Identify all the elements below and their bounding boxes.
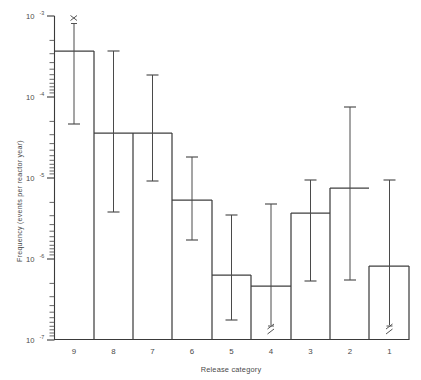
y-tick-label-1e-6-base: 10 bbox=[26, 255, 34, 264]
y-tick-label-1e-7-base: 10 bbox=[26, 336, 34, 345]
y-tick-label-1e-3-exponent: -3 bbox=[40, 10, 45, 16]
y-tick-label-1e-4-base: 10 bbox=[26, 93, 34, 102]
y-axis-title: Frequency (events per reactor year) bbox=[16, 140, 24, 262]
y-tick-label-1e-6-exponent: -6 bbox=[40, 253, 45, 259]
y-tick-label-1e-4-exponent: -4 bbox=[40, 91, 45, 97]
x-tick-label-8: 8 bbox=[111, 347, 116, 356]
x-axis-title: Release category bbox=[201, 365, 262, 374]
y-tick-label-1e-3-base: 10 bbox=[26, 12, 34, 21]
x-tick-label-9: 9 bbox=[72, 347, 77, 356]
y-tick-label-1e-7-exponent: -7 bbox=[40, 334, 45, 340]
y-tick-label-1e-5-base: 10 bbox=[26, 174, 34, 183]
x-tick-label-7: 7 bbox=[150, 347, 154, 356]
chart-svg: 10 -3 10 -4 10 -5 10 -6 10 -7 Frequency … bbox=[0, 0, 421, 380]
x-tick-label-3: 3 bbox=[308, 347, 313, 356]
x-tick-label-5: 5 bbox=[229, 347, 234, 356]
x-tick-label-1: 1 bbox=[387, 347, 391, 356]
chart-background bbox=[0, 0, 421, 380]
x-tick-label-6: 6 bbox=[190, 347, 195, 356]
y-tick-label-1e-5-exponent: -5 bbox=[40, 172, 45, 178]
x-tick-label-2: 2 bbox=[348, 347, 352, 356]
chart-figure: 10 -3 10 -4 10 -5 10 -6 10 -7 Frequency … bbox=[0, 0, 421, 380]
x-tick-label-4: 4 bbox=[269, 347, 274, 356]
